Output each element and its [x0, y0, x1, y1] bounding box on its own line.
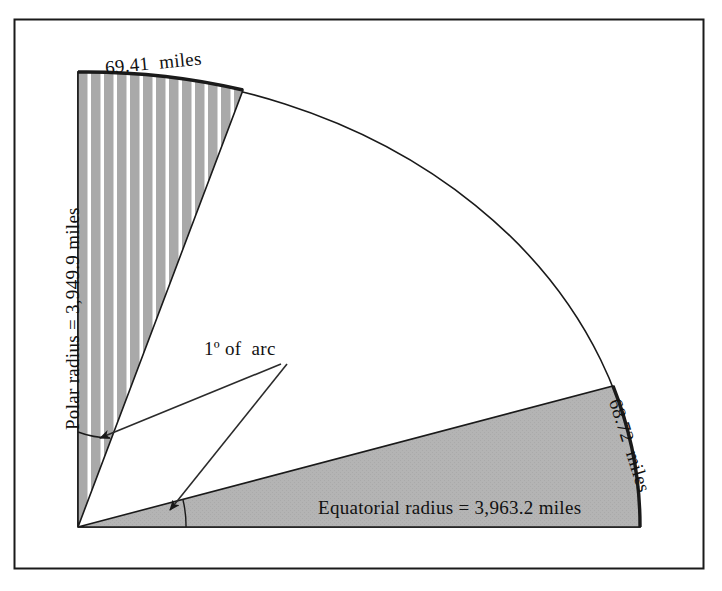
equatorial-radius-label: Equatorial radius = 3,963.2 miles: [318, 497, 581, 519]
polar-radius-label: Polar radius = 3,949.9 miles: [62, 207, 84, 430]
figure-container: 69.41 miles Polar radius = 3,949.9 miles…: [0, 0, 722, 591]
arc-degree-label: 1º of arc: [204, 338, 276, 360]
